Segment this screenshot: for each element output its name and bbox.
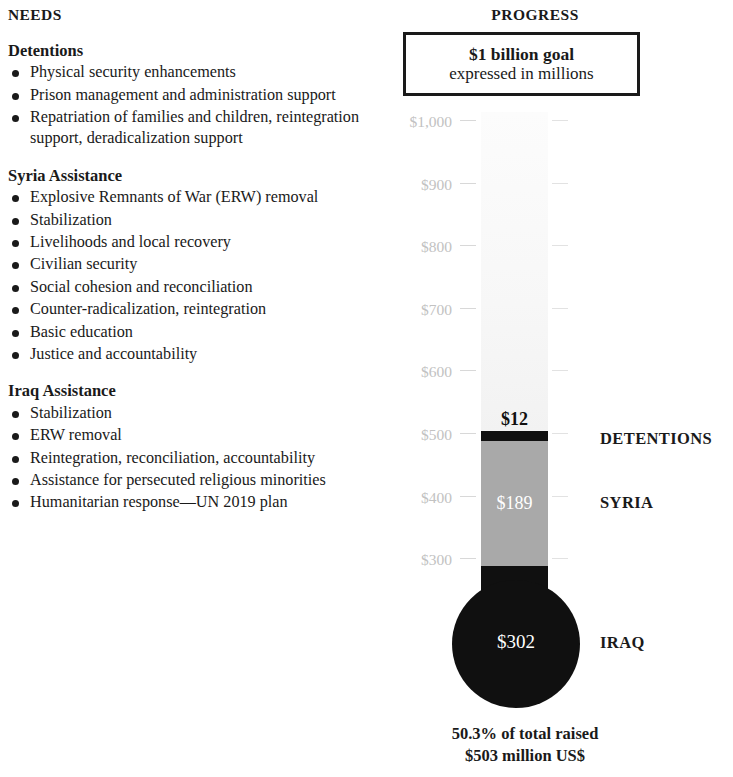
axis-tick-mark-right [552,496,568,497]
bullet-icon [12,115,19,122]
list-item-label: Reintegration, reconciliation, accountab… [30,449,315,467]
needs-list-iraq: Stabilization ERW removal Reintegration,… [8,403,380,514]
list-item: Social cohesion and reconciliation [8,277,380,298]
footer-total-raised: $503 million US$ [380,745,670,767]
axis-tick-mark-left [460,183,476,184]
list-item: ERW removal [8,425,380,446]
list-item-label: Assistance for persecuted religious mino… [30,471,326,489]
bullet-icon [12,240,19,247]
axis-tick-mark-right [552,120,568,121]
axis-tick-mark-left [460,433,476,434]
axis-tick-label-1000: $1,000 [380,114,452,130]
category-label-iraq: IRAQ [600,633,645,653]
axis-tick-mark-right [552,558,568,559]
list-item: Prison management and administration sup… [8,85,380,106]
list-item-label: Social cohesion and reconciliation [30,278,253,296]
bullet-icon [12,195,19,202]
axis-tick-mark-left [460,558,476,559]
bullet-icon [12,411,19,418]
goal-box: $1 billion goal expressed in millions [403,32,640,96]
bullet-icon [12,285,19,292]
goal-subline: expressed in millions [449,64,593,84]
list-item-label: Humanitarian response—UN 2019 plan [30,493,288,511]
list-item: Livelihoods and local recovery [8,232,380,253]
list-item: Justice and accountability [8,344,380,365]
progress-heading: PROGRESS [380,6,690,24]
bullet-icon [12,93,19,100]
segment-value-detentions: $12 [481,409,548,430]
list-item: Stabilization [8,403,380,424]
list-item-label: Prison management and administration sup… [30,86,336,104]
list-item-label: Justice and accountability [30,345,197,363]
bullet-icon [12,262,19,269]
axis-tick-mark-right [552,433,568,434]
axis-tick-mark-left [460,308,476,309]
list-item: Assistance for persecuted religious mino… [8,470,380,491]
bullet-icon [12,307,19,314]
group-title: Detentions [8,41,380,62]
segment-value-iraq: $302 [497,631,535,653]
list-item: Counter-radicalization, reintegration [8,299,380,320]
axis-tick-mark-left [460,496,476,497]
needs-list-detentions: Physical security enhancements Prison ma… [8,62,380,150]
axis-tick-mark-left [460,370,476,371]
needs-group-detentions: Detentions Physical security enhancement… [8,41,380,150]
list-item: Physical security enhancements [8,62,380,83]
list-item-label: Stabilization [30,404,112,422]
bullet-icon [12,218,19,225]
list-item-label: Stabilization [30,211,112,229]
bullet-icon [12,352,19,359]
bullet-icon [12,456,19,463]
list-item: Stabilization [8,210,380,231]
thermometer-tube-empty [481,112,548,432]
axis-tick-mark-right [552,370,568,371]
needs-group-iraq: Iraq Assistance Stabilization ERW remova… [8,381,380,514]
thermometer-bulb-iraq: $302 [452,580,580,708]
axis-tick-mark-right [552,245,568,246]
axis-tick-mark-right [552,183,568,184]
list-item: Repatriation of families and children, r… [8,107,380,150]
axis-tick-label-300: $300 [380,552,452,568]
group-title: Iraq Assistance [8,381,380,402]
list-item-label: ERW removal [30,426,122,444]
bullet-icon [12,433,19,440]
axis-tick-label-800: $800 [380,239,452,255]
list-item: Humanitarian response—UN 2019 plan [8,492,380,513]
bullet-icon [12,500,19,507]
list-item: Explosive Remnants of War (ERW) removal [8,187,380,208]
axis-tick-label-400: $400 [380,490,452,506]
axis-tick-mark-left [460,245,476,246]
list-item-label: Physical security enhancements [30,63,236,81]
axis-tick-label-600: $600 [380,364,452,380]
group-title: Syria Assistance [8,166,380,187]
list-item-label: Civilian security [30,255,137,273]
needs-column: NEEDS Detentions Physical security enhan… [8,0,380,777]
list-item-label: Repatriation of families and children, r… [30,108,359,147]
goal-headline: $1 billion goal [469,44,574,64]
footer-percent-raised: 50.3% of total raised [380,723,670,745]
list-item-label: Explosive Remnants of War (ERW) removal [30,188,318,206]
list-item-label: Counter-radicalization, reintegration [30,300,266,318]
segment-value-syria: $189 [497,493,533,514]
list-item: Basic education [8,322,380,343]
progress-footer: 50.3% of total raised $503 million US$ [380,723,670,768]
progress-column: PROGRESS $1 billion goal expressed in mi… [380,0,733,777]
needs-group-syria: Syria Assistance Explosive Remnants of W… [8,166,380,366]
thermometer-segment-syria: $189 [481,441,548,566]
axis-tick-label-500: $500 [380,427,452,443]
axis-tick-label-900: $900 [380,177,452,193]
axis-tick-mark-left [460,120,476,121]
list-item: Reintegration, reconciliation, accountab… [8,448,380,469]
category-label-syria: SYRIA [600,493,653,513]
category-label-detentions: DETENTIONS [600,429,712,449]
list-item-label: Basic education [30,323,133,341]
needs-heading: NEEDS [8,6,380,25]
bullet-icon [12,330,19,337]
thermometer-segment-detentions [481,431,548,441]
bullet-icon [12,478,19,485]
axis-tick-mark-right [552,308,568,309]
list-item: Civilian security [8,254,380,275]
axis-tick-label-700: $700 [380,302,452,318]
list-item-label: Livelihoods and local recovery [30,233,231,251]
needs-list-syria: Explosive Remnants of War (ERW) removal … [8,187,380,365]
